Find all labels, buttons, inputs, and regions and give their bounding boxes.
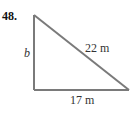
- hypotenuse-label: 22 m: [85, 41, 109, 56]
- base-label: 17 m: [70, 93, 94, 108]
- hypotenuse: [34, 15, 129, 90]
- right-triangle: [0, 0, 137, 114]
- vertical-leg-label: b: [24, 46, 30, 61]
